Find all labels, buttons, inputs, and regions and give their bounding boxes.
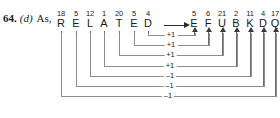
plaintext-column-5: 20T bbox=[112, 10, 126, 29]
shift-bracket-label-7: –1 bbox=[162, 92, 174, 100]
plaintext-column-letter: T bbox=[112, 18, 126, 29]
plaintext-column-letter: E bbox=[127, 18, 141, 29]
maps-to-arrow bbox=[164, 22, 190, 29]
shift-bracket-7 bbox=[61, 33, 277, 97]
question-lead-text: As, bbox=[37, 12, 52, 24]
arrow-head bbox=[184, 22, 190, 28]
figure-canvas: 64.(d)As, 18R5E12L1A20T5E4D 5E6F21U2B11K… bbox=[0, 0, 280, 118]
clipped-top-text bbox=[70, 0, 210, 5]
plaintext-column-letter: R bbox=[54, 18, 68, 29]
plaintext-column-2: 5E bbox=[69, 10, 83, 29]
plaintext-column-letter: A bbox=[97, 18, 111, 29]
question-number: 64. bbox=[3, 12, 17, 24]
question-option: (d) bbox=[20, 12, 33, 24]
plaintext-column-6: 5E bbox=[127, 10, 141, 29]
plaintext-column-7: 4D bbox=[141, 10, 155, 29]
question-lead: 64.(d)As, bbox=[3, 12, 52, 24]
plaintext-column-letter: L bbox=[83, 18, 97, 29]
plaintext-column-letter: D bbox=[141, 18, 155, 29]
plaintext-column-1: 18R bbox=[54, 10, 68, 29]
plaintext-column-letter: E bbox=[69, 18, 83, 29]
plaintext-column-3: 12L bbox=[83, 10, 97, 29]
arrow-shaft bbox=[164, 25, 185, 26]
plaintext-column-4: 1A bbox=[97, 10, 111, 29]
